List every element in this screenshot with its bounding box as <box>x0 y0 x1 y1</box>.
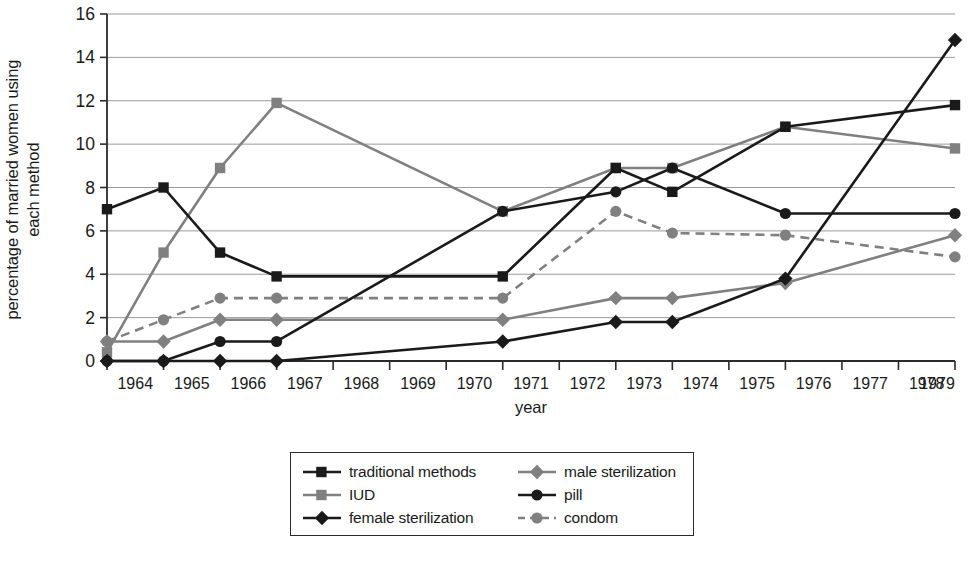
data-point-marker <box>215 247 225 257</box>
x-axis-tick-label: 1976 <box>796 375 832 392</box>
data-point-marker <box>665 291 679 305</box>
data-point-marker <box>158 355 169 366</box>
data-point-marker <box>948 228 962 242</box>
data-point-marker <box>269 313 283 327</box>
legend-item[interactable]: traditional methods <box>301 463 516 481</box>
legend-marker-icon <box>301 486 343 504</box>
data-point-marker <box>214 293 225 304</box>
legend-marker-icon <box>516 463 558 481</box>
data-point-marker <box>667 227 678 238</box>
legend-item[interactable]: IUD <box>301 486 516 504</box>
data-point-marker <box>102 204 112 214</box>
x-axis-tick-label: 1967 <box>287 375 323 392</box>
line-chart-figure: percentage of married women using each m… <box>0 0 976 562</box>
y-axis-tick-label: 4 <box>85 264 95 284</box>
data-point-marker <box>271 336 282 347</box>
data-point-marker <box>949 208 960 219</box>
y-axis-tick-label: 10 <box>76 134 96 154</box>
y-axis-tick-label: 8 <box>85 178 95 198</box>
y-axis-tick-label: 16 <box>76 4 95 24</box>
legend-marker-icon <box>301 509 343 527</box>
data-point-marker <box>497 293 508 304</box>
legend-marker-icon <box>301 463 343 481</box>
y-axis-title-line1: percentage of married women using <box>2 60 23 320</box>
data-point-marker <box>101 336 112 347</box>
series-line <box>107 235 955 341</box>
data-point-marker <box>496 313 510 327</box>
data-point-marker <box>213 313 227 327</box>
x-axis-tick-label: 1979 <box>919 375 955 392</box>
legend-item-label: condom <box>564 509 618 527</box>
y-axis-tick-label: 12 <box>76 91 95 111</box>
x-axis-tick-label: 1971 <box>513 375 549 392</box>
x-axis-title: year <box>107 398 955 417</box>
data-point-marker <box>214 336 225 347</box>
x-axis-tick-label: 1964 <box>117 375 153 392</box>
data-point-marker <box>271 293 282 304</box>
x-axis-tick-label: 1974 <box>683 375 719 392</box>
data-point-marker <box>610 186 621 197</box>
data-point-marker <box>949 251 960 262</box>
x-axis-tick-label: 1965 <box>174 375 210 392</box>
y-axis-title-line2: each method <box>23 60 44 320</box>
x-axis-tick-label: 1972 <box>570 375 606 392</box>
plot-area: 0246810121416196419651966196719681969197… <box>0 0 976 440</box>
data-point-marker <box>498 271 508 281</box>
data-point-marker <box>780 208 791 219</box>
data-point-marker <box>950 143 960 153</box>
data-point-marker <box>158 182 168 192</box>
data-point-marker <box>497 206 508 217</box>
legend-item-label: male sterilization <box>564 463 676 481</box>
legend-item-label: female sterilization <box>349 509 473 527</box>
x-axis-tick-label: 1968 <box>344 375 380 392</box>
data-point-marker <box>269 354 283 368</box>
series-line <box>107 105 955 276</box>
data-point-marker <box>101 355 112 366</box>
y-axis-title: percentage of married women using each m… <box>0 0 46 380</box>
data-point-marker <box>213 354 227 368</box>
y-axis-tick-label: 2 <box>85 308 95 328</box>
data-point-marker <box>158 314 169 325</box>
y-axis-tick-label: 14 <box>76 47 96 67</box>
data-point-marker <box>158 247 168 257</box>
x-axis-tick-label: 1969 <box>400 375 436 392</box>
data-point-marker <box>271 271 281 281</box>
data-point-marker <box>667 162 678 173</box>
legend-marker-icon <box>516 486 558 504</box>
legend-item[interactable]: female sterilization <box>301 509 516 527</box>
legend-item-label: pill <box>564 486 582 504</box>
legend-item[interactable]: male sterilization <box>516 463 685 481</box>
legend-item-label: traditional methods <box>349 463 476 481</box>
x-axis-tick-label: 1975 <box>739 375 775 392</box>
legend-marker-icon <box>516 509 558 527</box>
data-point-marker <box>271 98 281 108</box>
data-point-marker <box>780 122 790 132</box>
data-point-marker <box>609 315 623 329</box>
data-point-marker <box>215 163 225 173</box>
y-axis-tick-label: 6 <box>85 221 95 241</box>
series-traditional-methods <box>102 100 960 282</box>
series-condom <box>101 206 960 347</box>
data-point-marker <box>950 100 960 110</box>
x-axis-tick-label: 1973 <box>626 375 662 392</box>
x-axis-tick-label: 1977 <box>852 375 888 392</box>
data-point-marker <box>609 291 623 305</box>
legend-item[interactable]: pill <box>516 486 685 504</box>
legend-item[interactable]: condom <box>516 509 685 527</box>
data-point-marker <box>496 334 510 348</box>
series-line <box>107 168 955 361</box>
legend-item-label: IUD <box>349 486 375 504</box>
x-axis-tick-label: 1970 <box>457 375 493 392</box>
data-point-marker <box>667 187 677 197</box>
data-point-marker <box>611 163 621 173</box>
data-point-marker <box>610 206 621 217</box>
y-axis-tick-label: 0 <box>85 351 95 371</box>
x-axis-tick-label: 1966 <box>231 375 267 392</box>
chart-legend: traditional methodsmale sterilizationIUD… <box>290 452 694 536</box>
data-point-marker <box>156 334 170 348</box>
series-male-sterilization <box>100 228 962 349</box>
data-point-marker <box>665 315 679 329</box>
data-point-marker <box>780 230 791 241</box>
